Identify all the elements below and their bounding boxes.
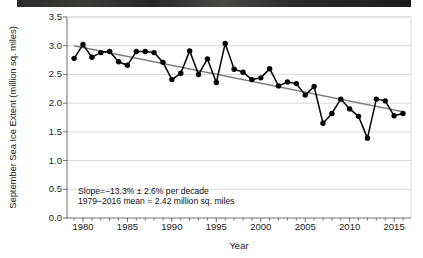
y-axis-title: September Sea Ice Extent (million sq. mi… (7, 13, 18, 223)
x-tick-label: 2005 (295, 221, 316, 232)
x-tick-label: 1985 (117, 221, 138, 232)
y-tick-label: 2.0 (28, 98, 62, 108)
y-tick-label: 0.5 (28, 185, 62, 195)
x-tick-label: 1995 (206, 221, 227, 232)
y-tick-label: 2.5 (28, 70, 62, 80)
y-tick-label: 1.0 (28, 156, 62, 166)
chart-screenshot: 3.53.02.52.01.51.00.50.0 198019851990199… (0, 0, 423, 258)
y-axis-tick-labels: 3.53.02.52.01.51.00.50.0 (24, 0, 62, 258)
x-tick-label: 2000 (250, 221, 271, 232)
x-tick-label: 2010 (339, 221, 360, 232)
y-tick-label: 0.0 (28, 213, 62, 223)
annotation-mean: 1979–2016 mean = 2.42 million sq. miles (78, 196, 234, 206)
data-line (74, 43, 403, 138)
plot-canvas (0, 0, 423, 258)
x-tick-label: 2015 (384, 221, 405, 232)
trend-line (74, 46, 403, 112)
x-axis-title: Year (67, 240, 411, 251)
x-tick-label: 1980 (72, 221, 93, 232)
sea-ice-extent-line-chart: 3.53.02.52.01.51.00.50.0 198019851990199… (0, 0, 423, 258)
y-tick-label: 1.5 (28, 127, 62, 137)
y-tick-marks (63, 17, 67, 218)
annotation-slope: Slope=−13.3% ± 2.6% per decade (78, 186, 209, 196)
y-tick-label: 3.5 (28, 12, 62, 22)
x-tick-label: 1990 (161, 221, 182, 232)
y-tick-label: 3.0 (28, 41, 62, 51)
